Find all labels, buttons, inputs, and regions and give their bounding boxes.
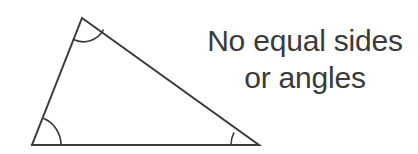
caption-line-1: No equal sides (198, 22, 412, 59)
bottom-right-angle-arc (231, 132, 234, 145)
caption-line-2: or angles (198, 59, 412, 96)
bottom-left-angle-arc (43, 118, 61, 145)
caption: No equal sides or angles (198, 22, 412, 96)
scalene-triangle-figure: No equal sides or angles (0, 0, 418, 154)
